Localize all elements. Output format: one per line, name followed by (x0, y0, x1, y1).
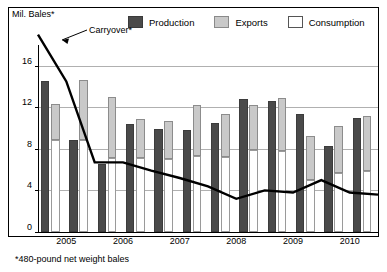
bar-production (126, 124, 135, 232)
bar-exports (79, 80, 88, 139)
bar-exports (334, 126, 343, 173)
x-label-2009: 2009 (283, 236, 303, 246)
bar-exports (306, 136, 315, 180)
bar-production (154, 129, 163, 232)
chart-screenshot: Mil. Bales* Production Exports Consumpti… (0, 0, 387, 272)
bar-consumption (164, 159, 173, 232)
y-tick-label-0: 0 (0, 222, 32, 232)
legend-label-exports: Exports (235, 17, 267, 28)
y-tick-mark-0 (35, 232, 38, 233)
consumption-swatch-icon (288, 16, 303, 28)
y-tick-label-16: 16 (0, 56, 32, 66)
bar-production (353, 118, 362, 232)
x-label-2007: 2007 (170, 236, 190, 246)
footnote: *480-pound net weight bales (15, 254, 129, 264)
bar-consumption (193, 156, 202, 232)
bar-production (324, 146, 333, 232)
exports-swatch-icon (214, 16, 229, 28)
x-label-2010: 2010 (340, 236, 360, 246)
bar-consumption (221, 157, 230, 232)
x-label-2006: 2006 (113, 236, 133, 246)
bar-consumption (79, 140, 88, 232)
bar-consumption (363, 171, 372, 232)
bar-exports (363, 116, 372, 171)
bar-exports (136, 119, 145, 158)
legend-item-exports: Exports (214, 16, 267, 28)
bar-production (268, 101, 277, 232)
x-axis-labels: 200520062007200820092010 (38, 236, 378, 250)
plot-area (38, 45, 378, 232)
legend-label-consumption: Consumption (309, 17, 365, 28)
y-tick-label-12: 12 (0, 97, 32, 107)
bar-production (98, 164, 107, 232)
bar-production (69, 140, 78, 232)
bar-exports (193, 105, 202, 156)
bar-production (41, 81, 50, 232)
legend-item-production: Production (128, 16, 194, 28)
bar-consumption (306, 180, 315, 232)
bar-production (296, 114, 305, 232)
bar-consumption (51, 140, 60, 232)
y-axis-line (38, 45, 39, 232)
bar-exports (249, 105, 258, 150)
gridline-0 (38, 232, 378, 233)
carryover-label: Carryover* (89, 25, 132, 35)
gridline-12 (38, 107, 378, 108)
bar-consumption (278, 151, 287, 232)
bar-consumption (108, 158, 117, 232)
legend-item-consumption: Consumption (288, 16, 365, 28)
y-axis-title: Mil. Bales* (12, 9, 55, 19)
bar-production (211, 123, 220, 232)
y-tick-label-8: 8 (0, 139, 32, 149)
bar-exports (108, 97, 117, 158)
bar-exports (278, 98, 287, 151)
bar-exports (164, 121, 173, 159)
y-tick-label-4: 4 (0, 180, 32, 190)
legend-label-production: Production (149, 17, 194, 28)
chart-legend: Production Exports Consumption (128, 16, 385, 28)
bar-consumption (136, 158, 145, 232)
x-label-2008: 2008 (226, 236, 246, 246)
bar-consumption (249, 150, 258, 232)
bar-production (239, 99, 248, 232)
bar-exports (51, 104, 60, 139)
bar-consumption (334, 173, 343, 232)
bar-production (183, 130, 192, 232)
gridline-16 (38, 66, 378, 67)
bar-exports (221, 114, 230, 158)
x-label-2005: 2005 (56, 236, 76, 246)
